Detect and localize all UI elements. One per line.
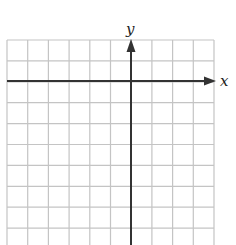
y-axis-label: y <box>125 20 135 38</box>
coordinate-grid-diagram: x y <box>0 0 236 245</box>
y-axis-arrow-icon <box>127 39 136 52</box>
grid-lines <box>7 40 214 245</box>
x-axis-label: x <box>220 72 229 90</box>
